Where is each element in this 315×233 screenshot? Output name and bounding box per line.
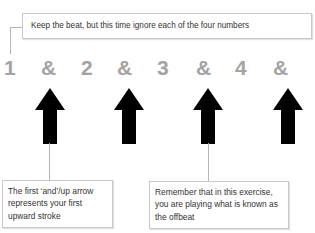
note-offbeat: Remember that in this exercise, you are … [149, 181, 289, 229]
up-arrow-icon [193, 88, 223, 144]
count-and-4: & [273, 56, 288, 80]
note-offbeat-text: Remember that in this exercise, you are … [155, 187, 278, 222]
up-arrow-icon [273, 88, 303, 144]
instruction-callout: Keep the beat, but this time ignore each… [22, 13, 312, 39]
note-first-upstroke-text: The first ‘and’/up arrow represents your… [8, 186, 93, 221]
count-and-2: & [117, 56, 132, 80]
connector-line-top-horizontal [10, 27, 22, 28]
count-beat-4: 4 [235, 56, 247, 80]
up-arrow-icon [114, 88, 144, 144]
up-arrow-icon [35, 88, 65, 144]
note-first-upstroke: The first ‘and’/up arrow represents your… [2, 180, 113, 228]
connector-line-right-note [208, 143, 209, 181]
connector-line-top-vertical [10, 27, 11, 54]
count-and-3: & [196, 56, 211, 80]
count-and-1: & [41, 56, 56, 80]
connector-line-left-note [49, 143, 50, 180]
count-beat-1: 1 [4, 56, 16, 80]
count-beat-3: 3 [157, 56, 169, 80]
instruction-text: Keep the beat, but this time ignore each… [31, 21, 249, 30]
count-beat-2: 2 [81, 56, 93, 80]
